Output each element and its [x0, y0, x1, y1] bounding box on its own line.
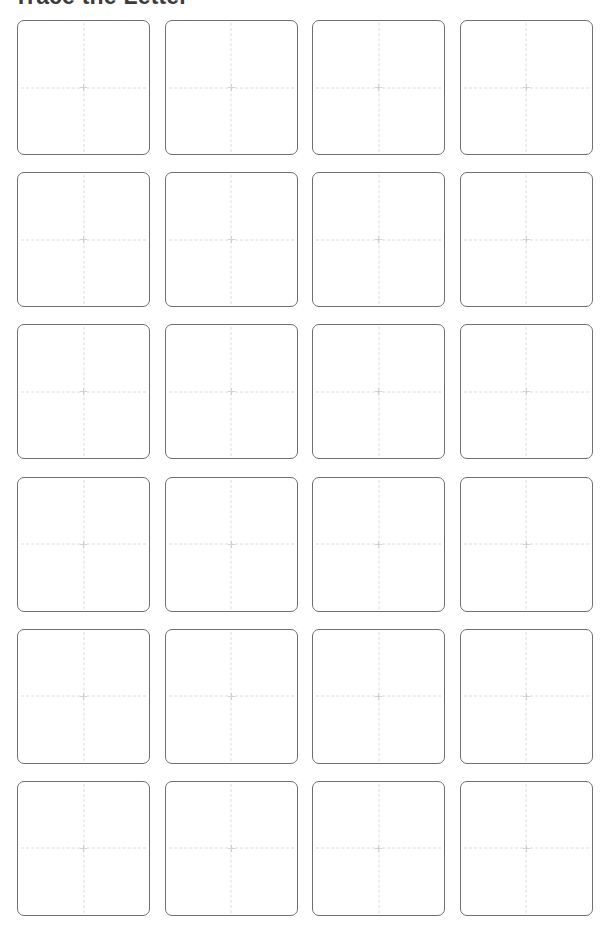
practice-box[interactable]	[17, 477, 150, 612]
practice-box-content	[18, 173, 149, 306]
practice-box-content	[18, 325, 149, 458]
practice-box-content	[166, 325, 297, 458]
worksheet-page: Trace the Letter	[0, 0, 616, 936]
practice-box[interactable]	[312, 629, 445, 764]
practice-box[interactable]	[17, 20, 150, 155]
practice-box[interactable]	[165, 20, 298, 155]
practice-box-content	[461, 478, 592, 611]
practice-box[interactable]	[312, 172, 445, 307]
practice-box[interactable]	[312, 477, 445, 612]
practice-box-content	[461, 325, 592, 458]
practice-box-content	[313, 173, 444, 306]
practice-box[interactable]	[460, 477, 593, 612]
practice-box-grid	[17, 20, 593, 916]
practice-box[interactable]	[17, 172, 150, 307]
practice-box-content	[313, 782, 444, 915]
practice-box[interactable]	[460, 324, 593, 459]
practice-box-content	[313, 21, 444, 154]
practice-box-content	[18, 478, 149, 611]
practice-box-content	[461, 173, 592, 306]
practice-box[interactable]	[460, 172, 593, 307]
practice-box[interactable]	[17, 781, 150, 916]
practice-box[interactable]	[312, 324, 445, 459]
practice-box-content	[461, 782, 592, 915]
practice-box[interactable]	[312, 781, 445, 916]
practice-box-content	[461, 21, 592, 154]
practice-box[interactable]	[165, 629, 298, 764]
practice-box-content	[313, 630, 444, 763]
practice-box-content	[313, 478, 444, 611]
practice-box-content	[166, 173, 297, 306]
practice-box[interactable]	[165, 477, 298, 612]
practice-box[interactable]	[17, 324, 150, 459]
practice-box[interactable]	[460, 629, 593, 764]
practice-box-content	[166, 478, 297, 611]
practice-box-content	[166, 782, 297, 915]
practice-box[interactable]	[460, 781, 593, 916]
practice-box-content	[18, 630, 149, 763]
practice-box-content	[166, 630, 297, 763]
practice-box[interactable]	[165, 324, 298, 459]
practice-box[interactable]	[17, 629, 150, 764]
page-title: Trace the Letter	[14, 0, 189, 9]
practice-box-content	[18, 21, 149, 154]
practice-box-content	[166, 21, 297, 154]
practice-box[interactable]	[460, 20, 593, 155]
practice-box[interactable]	[312, 20, 445, 155]
practice-box-content	[461, 630, 592, 763]
practice-box-content	[18, 782, 149, 915]
page-title-clip: Trace the Letter	[0, 0, 616, 9]
practice-box-content	[313, 325, 444, 458]
practice-box[interactable]	[165, 781, 298, 916]
practice-box[interactable]	[165, 172, 298, 307]
